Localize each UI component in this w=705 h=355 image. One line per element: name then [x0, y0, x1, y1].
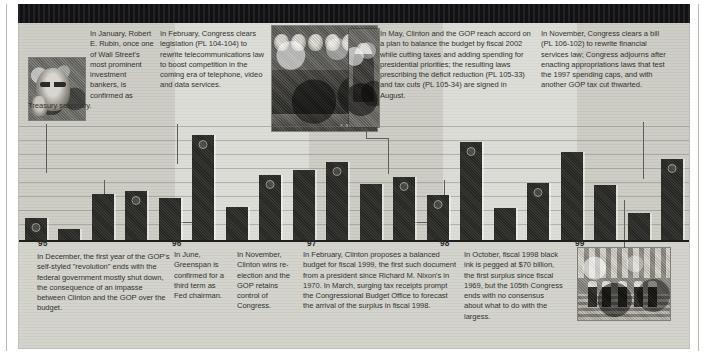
chart-bar — [561, 152, 583, 240]
year-label-99: '99 — [573, 238, 585, 248]
chart-bar — [226, 207, 248, 240]
chart-bar — [192, 135, 214, 240]
callout-feb-1996-telecom: In February, Congress clears legislation… — [160, 29, 268, 91]
axis-tick — [672, 237, 673, 240]
photo-grain — [349, 29, 379, 127]
chart-bar — [159, 198, 181, 240]
callout-nov-1999-financial-services: In November, Congress clears a bill (PL … — [541, 29, 671, 91]
callout-jun-1996-greenspan: In June, Greenspan is confirmed for a th… — [174, 250, 230, 301]
scan-rule-right — [698, 4, 699, 351]
gridline — [19, 154, 689, 155]
bar-marker-dot — [199, 140, 208, 149]
bar-marker-dot — [467, 147, 476, 156]
callout-text: In November, Congress clears a bill (PL … — [541, 29, 671, 91]
gridline — [19, 210, 689, 211]
year-label-97: '97 — [305, 238, 317, 248]
chart-bar — [494, 208, 516, 240]
callout-text: In February, Clinton proposes a balanced… — [303, 250, 457, 312]
gridline — [19, 196, 689, 197]
axis-tick — [237, 237, 238, 240]
clinton-at-desk-photo — [349, 29, 379, 127]
bar-marker-dot — [534, 188, 543, 197]
axis-tick — [270, 237, 271, 240]
callout-text: In December, the first year of the GOP's… — [37, 252, 171, 314]
axis-tick — [69, 237, 70, 240]
callout-text: In October, fiscal 1998 black ink is peg… — [464, 250, 564, 322]
axis-tick — [605, 237, 606, 240]
year-label-96: '96 — [170, 238, 182, 248]
bar-marker-dot — [132, 196, 141, 205]
header-texture — [18, 4, 690, 23]
chart-bar — [628, 213, 650, 240]
callout-feb-1998-balanced-budget-proposal: In February, Clinton proposes a balanced… — [303, 250, 457, 312]
chart-bar — [427, 195, 449, 240]
chart-bar — [393, 177, 415, 240]
bar-marker-dot — [668, 164, 677, 173]
bar-marker-dot — [266, 180, 275, 189]
callout-text: In November, Clinton wins re-election an… — [237, 250, 297, 312]
chart-bar — [360, 184, 382, 240]
chart-tick-row — [19, 237, 689, 240]
callout-nov-1996-reelection: In November, Clinton wins re-election an… — [237, 250, 297, 312]
text-wrap-spacer — [28, 30, 85, 92]
chart-bar — [125, 191, 147, 240]
chart-bar — [92, 194, 114, 240]
deficit-bar-chart — [19, 120, 689, 242]
chart-bar — [594, 185, 616, 240]
callout-may-1997-balanced-budget: In May, Clinton and the GOP reach accord… — [380, 29, 532, 101]
chart-bar — [259, 175, 281, 240]
axis-tick — [505, 237, 506, 240]
gridline — [19, 126, 689, 127]
chart-baseline — [19, 240, 689, 242]
callout-dec-1995-shutdown: In December, the first year of the GOP's… — [37, 252, 171, 314]
chart-bar — [460, 142, 482, 240]
photo-grain — [578, 248, 670, 320]
scan-left-margin — [0, 0, 5, 355]
infographic-page: R. Michael Jenkins In January, Robert E.… — [0, 0, 705, 355]
callout-text: In February, Congress clears legislation… — [160, 29, 268, 91]
gridline — [19, 182, 689, 183]
header-strip — [18, 4, 690, 23]
chart-bar — [527, 183, 549, 240]
axis-tick — [471, 237, 472, 240]
gridline — [19, 168, 689, 169]
year-label-98: '98 — [438, 238, 450, 248]
gridline — [19, 140, 689, 141]
axis-tick — [337, 237, 338, 240]
scan-rule-left — [6, 4, 7, 351]
callout-jan-1995-rubin: In January, Robert E. Rubin, once one of… — [28, 29, 156, 111]
axis-tick — [203, 237, 204, 240]
axis-tick — [404, 237, 405, 240]
axis-tick — [639, 237, 640, 240]
bar-marker-dot — [400, 182, 409, 191]
bar-marker-dot — [333, 167, 342, 176]
axis-tick — [371, 237, 372, 240]
chart-bar — [293, 170, 315, 240]
callout-oct-1998-surplus: In October, fiscal 1998 black ink is peg… — [464, 250, 564, 322]
chart-bar — [326, 162, 348, 240]
bar-marker-dot — [433, 200, 442, 209]
axis-tick — [538, 237, 539, 240]
axis-tick — [136, 237, 137, 240]
callout-text: In June, Greenspan is confirmed for a th… — [174, 250, 230, 301]
bar-marker-dot — [31, 223, 40, 232]
axis-tick — [103, 237, 104, 240]
chart-bar — [661, 159, 683, 240]
capitol-steps-photo — [578, 248, 670, 320]
callout-text: In May, Clinton and the GOP reach accord… — [380, 29, 532, 101]
gridline — [19, 224, 689, 225]
year-label-95: '95 — [36, 238, 48, 248]
